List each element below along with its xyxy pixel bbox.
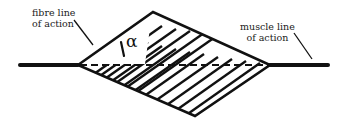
muscle-label-line-2: of action [240,33,295,44]
muscle-line-of-action-label: muscle line of action [240,22,295,43]
fibre-line-of-action-label: fibre line of action [32,8,75,29]
pennation-angle-alpha-label: α [126,31,137,51]
fibre-leader-line [74,20,93,45]
muscle-label-line-1: muscle line [240,22,295,33]
muscle-leader-line [294,33,312,59]
fibre-label-line-2: of action [32,19,75,30]
fibre-label-line-1: fibre line [32,8,75,19]
